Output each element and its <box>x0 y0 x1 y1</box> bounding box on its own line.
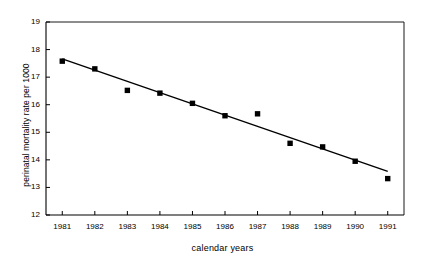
plot-area <box>0 0 422 265</box>
axis-ticks <box>46 22 388 215</box>
data-point-markers <box>60 58 391 181</box>
x-axis-title: calendar years <box>45 243 400 253</box>
perinatal-mortality-chart: perinatal mortality rate per 1000 121314… <box>0 0 422 265</box>
axis-lines <box>46 22 404 215</box>
